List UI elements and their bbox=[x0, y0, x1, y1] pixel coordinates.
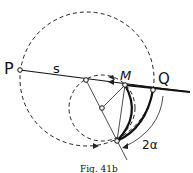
label-q: Q bbox=[158, 72, 170, 87]
figure-caption: Fig. 41b bbox=[80, 165, 118, 173]
point-bottom bbox=[115, 139, 120, 144]
label-s: s bbox=[53, 62, 60, 75]
line-diagonal bbox=[86, 80, 127, 160]
arrowhead-large-circle bbox=[93, 143, 99, 149]
line-m-inner bbox=[102, 85, 125, 108]
label-angle: 2α bbox=[142, 139, 158, 151]
point-q bbox=[151, 88, 156, 93]
arrowhead-line bbox=[108, 79, 114, 85]
label-m: M bbox=[120, 69, 131, 82]
point-left bbox=[84, 78, 89, 83]
diagram: P s M Q 2α Fig. 41b bbox=[0, 0, 193, 173]
point-p bbox=[18, 68, 23, 73]
point-inner bbox=[100, 106, 105, 111]
angle-arrowhead bbox=[122, 143, 128, 149]
label-p: P bbox=[4, 61, 14, 77]
point-m bbox=[123, 83, 128, 88]
